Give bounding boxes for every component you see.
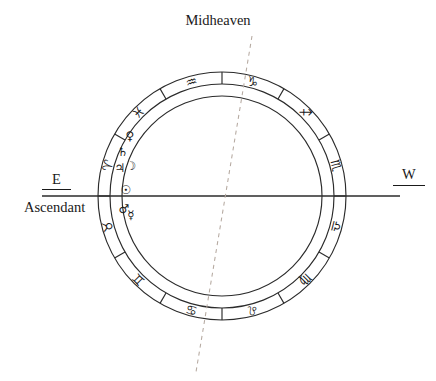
zodiac-glyph-pisces: ♓ bbox=[129, 103, 148, 122]
zodiac-glyph-scorpio: ♏ bbox=[327, 158, 345, 173]
zodiac-glyph-aquarius: ♒ bbox=[184, 73, 199, 91]
planet-glyph-saturn: ♄ bbox=[118, 145, 129, 159]
zodiac-glyph-cancer: ♋ bbox=[184, 301, 199, 319]
planet-glyph-mercury: ☿ bbox=[127, 208, 134, 222]
sector-divider bbox=[278, 89, 284, 99]
east-direction-label: E bbox=[42, 171, 71, 190]
planet-glyph-venus: ♀ bbox=[126, 129, 135, 143]
astrology-chart-page: ♒♑♐♏♎♍♌♋♊♉♈♓ ♀♄♃☽☉♂☿ Midheaven E Ascenda… bbox=[0, 0, 436, 381]
ascendant-label: Ascendant bbox=[24, 199, 85, 216]
zodiac-glyph-virgo: ♍ bbox=[296, 270, 315, 289]
planet-glyph-jupiter: ♃ bbox=[115, 161, 126, 175]
midheaven-ic-axis bbox=[196, 36, 252, 372]
planet-glyph-sun: ☉ bbox=[121, 183, 132, 197]
zodiac-glyph-leo: ♌ bbox=[245, 301, 260, 319]
sector-divider bbox=[319, 252, 329, 258]
west-direction-label: W bbox=[393, 166, 425, 186]
sector-divider bbox=[115, 134, 125, 140]
zodiac-glyph-sagittarius: ♐ bbox=[296, 103, 315, 122]
zodiac-glyph-libra: ♎ bbox=[327, 219, 345, 234]
midheaven-line bbox=[196, 36, 252, 372]
midheaven-label: Midheaven bbox=[0, 12, 436, 29]
sector-divider bbox=[115, 252, 125, 258]
sector-divider bbox=[278, 293, 284, 303]
zodiac-glyph-taurus: ♉ bbox=[99, 219, 117, 234]
zodiac-glyph-gemini: ♊ bbox=[129, 270, 148, 289]
sector-divider bbox=[160, 89, 166, 99]
zodiac-glyph-capricorn: ♑ bbox=[245, 73, 260, 91]
planet-glyph-moon: ☽ bbox=[126, 159, 137, 173]
sector-divider bbox=[319, 134, 329, 140]
planet-glyph-layer: ♀♄♃☽☉♂☿ bbox=[115, 129, 137, 222]
natal-chart-wheel: ♒♑♐♏♎♍♌♋♊♉♈♓ ♀♄♃☽☉♂☿ bbox=[0, 0, 436, 381]
sector-divider bbox=[160, 293, 166, 303]
